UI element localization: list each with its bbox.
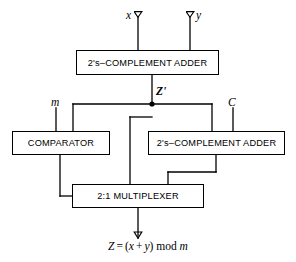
- output-modulus: m: [180, 240, 188, 252]
- block-twos-complement-adder-top: 2's–COMPLEMENT ADDER: [76, 50, 219, 75]
- output-equals: =: [114, 240, 125, 252]
- output-mod-keyword: mod: [156, 240, 176, 252]
- signal-label-c: C: [228, 96, 236, 108]
- block-comparator: COMPARATOR: [12, 131, 110, 155]
- block-twos-complement-adder-mod: 2's–COMPLEMENT ADDER: [148, 131, 285, 155]
- signal-label-z-prime: Z': [156, 85, 166, 97]
- circuit-diagram: 2's–COMPLEMENT ADDER COMPARATOR 2's–COMP…: [0, 0, 296, 262]
- output-equation: Z=(x+y) mod m: [0, 240, 296, 252]
- signal-label-y: y: [196, 9, 201, 21]
- output-plus: +: [134, 240, 145, 252]
- block-multiplexer: 2:1 MULTIPLEXER: [72, 184, 204, 208]
- zprime-junction-dot: [149, 101, 154, 106]
- signal-label-x: x: [126, 9, 131, 21]
- signal-label-m: m: [51, 96, 59, 108]
